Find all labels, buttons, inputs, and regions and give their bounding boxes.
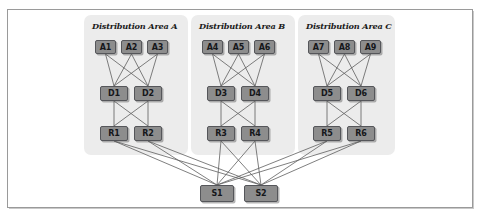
node-r2[interactable]: R2 (134, 126, 162, 141)
diagram-canvas: Distribution Area ADistribution Area BDi… (0, 0, 483, 221)
node-a5[interactable]: A5 (228, 40, 249, 54)
node-a6[interactable]: A6 (254, 40, 275, 54)
node-a3[interactable]: A3 (147, 40, 168, 54)
node-a2[interactable]: A2 (121, 40, 142, 54)
node-s2[interactable]: S2 (244, 185, 278, 202)
node-s1[interactable]: S1 (200, 185, 234, 202)
node-d2[interactable]: D2 (134, 86, 162, 101)
node-d4[interactable]: D4 (241, 86, 269, 101)
node-r3[interactable]: R3 (207, 126, 235, 141)
node-d1[interactable]: D1 (100, 86, 128, 101)
node-r5[interactable]: R5 (313, 126, 341, 141)
node-a9[interactable]: A9 (360, 40, 381, 54)
node-r6[interactable]: R6 (347, 126, 375, 141)
node-d5[interactable]: D5 (313, 86, 341, 101)
node-a8[interactable]: A8 (334, 40, 355, 54)
node-r1[interactable]: R1 (100, 126, 128, 141)
node-d3[interactable]: D3 (207, 86, 235, 101)
node-a1[interactable]: A1 (95, 40, 116, 54)
node-d6[interactable]: D6 (347, 86, 375, 101)
node-layer: A1A2A3A4A5A6A7A8A9D1D2D3D4D5D6R1R2R3R4R5… (0, 0, 483, 221)
node-a7[interactable]: A7 (308, 40, 329, 54)
node-a4[interactable]: A4 (202, 40, 223, 54)
node-r4[interactable]: R4 (241, 126, 269, 141)
